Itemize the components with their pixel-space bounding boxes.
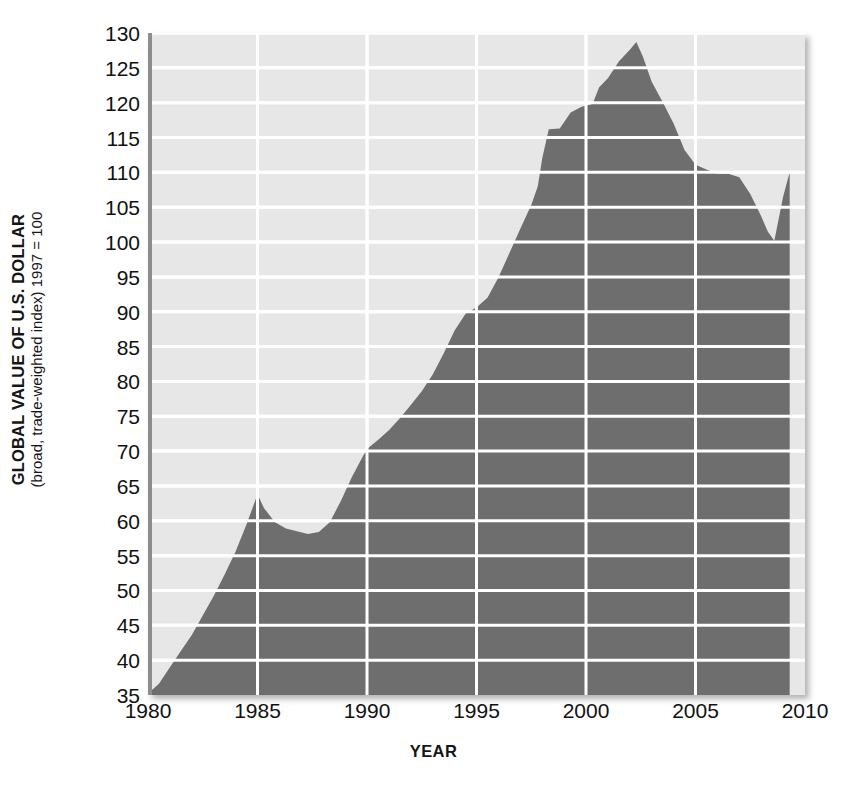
y-axis-tick-labels: 1301251201151101051009590858075706560555… xyxy=(58,0,140,790)
y-tick-label-65: 65 xyxy=(58,475,140,496)
y-axis-title: GLOBAL VALUE OF U.S. DOLLAR (broad, trad… xyxy=(0,0,56,700)
y-tick-label-80: 80 xyxy=(58,371,140,392)
y-tick-label-60: 60 xyxy=(58,510,140,531)
dollar-index-chart-figure: GLOBAL VALUE OF U.S. DOLLAR (broad, trad… xyxy=(0,0,867,790)
x-tick-label-2005: 2005 xyxy=(672,700,719,721)
y-tick-label-70: 70 xyxy=(58,441,140,462)
y-tick-label-115: 115 xyxy=(58,127,140,148)
y-tick-label-105: 105 xyxy=(58,197,140,218)
y-tick-label-40: 40 xyxy=(58,650,140,671)
x-axis-title: YEAR xyxy=(0,742,867,761)
x-tick-label-2000: 2000 xyxy=(563,700,610,721)
y-tick-label-130: 130 xyxy=(58,23,140,44)
y-tick-label-45: 45 xyxy=(58,615,140,636)
y-tick-label-55: 55 xyxy=(58,545,140,566)
y-tick-label-95: 95 xyxy=(58,266,140,287)
y-tick-label-100: 100 xyxy=(58,232,140,253)
y-tick-label-75: 75 xyxy=(58,406,140,427)
y-axis-line xyxy=(148,33,152,695)
y-tick-label-85: 85 xyxy=(58,336,140,357)
area-chart-svg xyxy=(148,33,805,695)
y-axis-title-main: GLOBAL VALUE OF U.S. DOLLAR xyxy=(9,212,28,488)
y-tick-label-50: 50 xyxy=(58,580,140,601)
x-tick-label-2010: 2010 xyxy=(782,700,829,721)
plot-area xyxy=(148,33,805,695)
y-axis-title-subtitle: (broad, trade-weighted index) 1997 = 100 xyxy=(29,212,47,488)
y-tick-label-120: 120 xyxy=(58,92,140,113)
y-tick-label-110: 110 xyxy=(58,162,140,183)
x-tick-label-1980: 1980 xyxy=(125,700,172,721)
y-tick-label-90: 90 xyxy=(58,301,140,322)
y-tick-label-125: 125 xyxy=(58,57,140,78)
x-tick-label-1990: 1990 xyxy=(344,700,391,721)
x-axis-tick-labels: 1980198519901995200020052010 xyxy=(0,700,867,734)
x-tick-label-1995: 1995 xyxy=(453,700,500,721)
x-tick-label-1985: 1985 xyxy=(234,700,281,721)
